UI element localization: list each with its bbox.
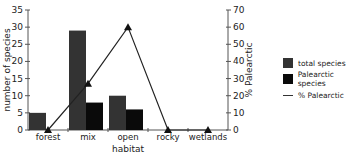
y2-tick-label: 30 (233, 74, 245, 84)
x-tick-label: open (117, 132, 138, 142)
x-tick-label: wetlands (189, 132, 228, 142)
bar-total-species (109, 96, 126, 130)
x-tick-label: forest (36, 132, 61, 142)
legend-label: Palearctic species (298, 70, 362, 88)
triangle-marker-icon (124, 23, 132, 30)
legend-item-percent-palearctic: % Palearctic (283, 88, 362, 102)
bar-total-species (69, 31, 86, 130)
bar-palearctic-species (86, 103, 103, 130)
y2-axis-label: % Palearctic (244, 42, 254, 97)
legend-item-total-species: total species (283, 56, 362, 70)
x-axis-label: habitat (112, 144, 144, 154)
x-tick-label: rocky (157, 132, 180, 142)
palearctic-species-swatch-icon (283, 74, 293, 84)
legend-label: total species (298, 59, 346, 68)
legend: total species Palearctic species % Palea… (283, 56, 362, 104)
y-tick-label: 30 (12, 22, 24, 32)
y2-tick-label: 60 (233, 22, 245, 32)
y2-tick-label: 0 (233, 125, 239, 135)
y-tick-label: 25 (12, 39, 23, 49)
x-tick-label: mix (80, 132, 96, 142)
line-swatch-icon (283, 95, 293, 96)
y-tick-label: 10 (12, 91, 24, 101)
legend-item-palearctic-species: Palearctic species (283, 72, 362, 86)
y-tick-label: 5 (17, 108, 23, 118)
y-tick-label: 20 (12, 56, 24, 66)
y-tick-label: 15 (12, 74, 23, 84)
bar-total-species (29, 113, 46, 130)
y-tick-label: 35 (12, 5, 23, 15)
y2-tick-label: 20 (233, 91, 245, 101)
y2-tick-label: 40 (233, 56, 245, 66)
total-species-swatch-icon (283, 58, 293, 68)
y-axis-label: number of species (2, 28, 12, 111)
y2-tick-label: 10 (233, 108, 245, 118)
bar-palearctic-species (126, 109, 143, 130)
y2-tick-label: 50 (233, 39, 245, 49)
y-tick-label: 0 (17, 125, 23, 135)
y2-tick-label: 70 (233, 5, 245, 15)
legend-label: % Palearctic (298, 91, 344, 100)
